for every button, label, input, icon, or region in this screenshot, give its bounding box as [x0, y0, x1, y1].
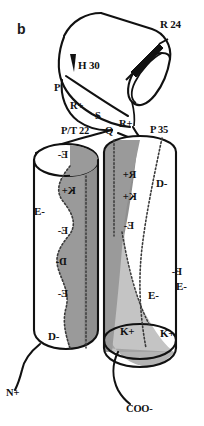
label-r24: R 24: [160, 19, 181, 30]
label-r-plus-lower: R+: [119, 119, 132, 130]
top-helix-group: [59, 12, 171, 130]
label-p: P: [54, 83, 60, 94]
left-helix-front-label-d: D-: [48, 331, 59, 342]
label-s: S: [95, 111, 101, 122]
label-p35: P 35: [150, 125, 168, 136]
right-helix-front-label-d: D-: [156, 178, 167, 189]
right-helix-c-terminus: COO-: [126, 404, 153, 415]
left-helix-back-label-k: K+: [62, 186, 76, 197]
left-helix-back-label-d: D-: [56, 257, 67, 268]
left-helix-n-tail: [15, 344, 40, 390]
left-helix-front-label-e: E-: [34, 206, 45, 217]
right-helix-front-label-k2: K+: [160, 328, 174, 339]
right-helix-front-label-e2: E-: [148, 290, 159, 301]
right-helix-back-label-e2: E-: [172, 267, 182, 278]
right-helix-back-label-r: R+: [123, 170, 136, 181]
label-r-plus-upper: R+: [70, 101, 83, 112]
left-helix-back-label-e3: E-: [58, 289, 68, 300]
label-h30: H 30: [78, 60, 100, 71]
panel-label: b: [17, 22, 25, 36]
right-helix-back-label-e1: E-: [124, 221, 134, 232]
left-helix-n-terminus: N+: [6, 388, 19, 399]
label-q: Q: [105, 126, 113, 137]
diagram-canvas: [0, 0, 204, 426]
left-helix-back-label-e1: E-: [58, 150, 68, 161]
right-helix-front-label-e1: E-: [176, 281, 187, 292]
right-helix-back-label-k: K+: [123, 192, 137, 203]
label-pt22: P/T 22: [61, 126, 89, 137]
left-helix-back-label-e2: E-: [58, 226, 68, 237]
figure-panel-b: b R 24 H 30 P R+ S P/T 22 Q R+ P 35 E- K…: [0, 0, 204, 426]
right-helix-front-label-k1: K+: [120, 326, 134, 337]
